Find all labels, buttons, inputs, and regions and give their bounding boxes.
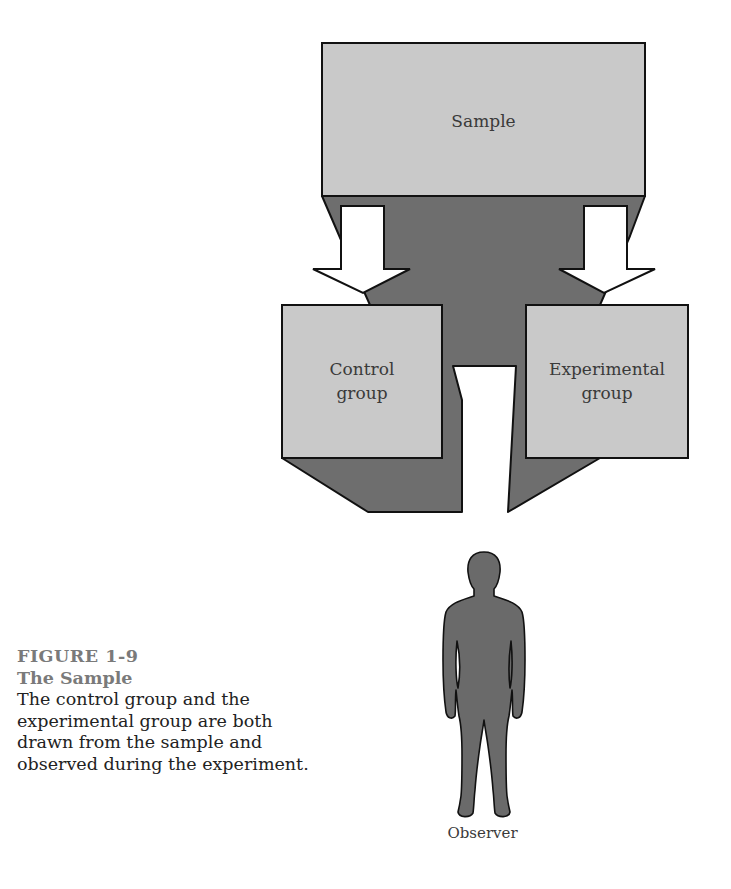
experimental-label-line1: Experimental (549, 359, 665, 379)
experimental-group-box: Experimental group (526, 305, 688, 458)
figure-description: The control group and the experimental g… (17, 689, 327, 775)
control-label-line1: Control (330, 359, 395, 379)
control-label-line2: group (336, 383, 387, 403)
figure-title: The Sample (17, 668, 327, 690)
figure-caption: FIGURE 1-9 The Sample The control group … (17, 646, 327, 775)
figure-number: FIGURE 1-9 (17, 646, 327, 668)
human-figure-icon (443, 552, 525, 817)
sample-label: Sample (451, 111, 515, 131)
sample-box: Sample (322, 43, 645, 196)
observer-label: Observer (420, 824, 545, 842)
control-group-box: Control group (282, 305, 442, 458)
experimental-label-line2: group (581, 383, 632, 403)
